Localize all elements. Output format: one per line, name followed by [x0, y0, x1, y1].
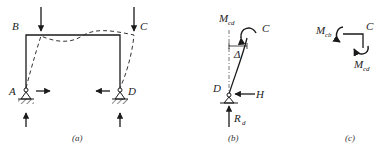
- frame-diagram: B C A D (a) M cd C Δ D H R d (b): [0, 0, 381, 150]
- label-h: H: [255, 88, 265, 100]
- pin-support-a: [18, 88, 34, 104]
- label-mcb-sub: cb: [325, 31, 332, 39]
- label-mcd-sub: cd: [228, 19, 235, 27]
- pin-support-d: [112, 88, 128, 104]
- label-rd-sub: d: [242, 119, 246, 127]
- label-c: C: [140, 20, 148, 32]
- label-delta: Δ: [233, 48, 240, 60]
- label-c-b: C: [262, 22, 270, 34]
- panel-b: M cd C Δ D H R d (b): [212, 12, 270, 143]
- panel-c: M cb C M cd (c): [315, 20, 374, 143]
- moment-arrow-mcb: [336, 27, 343, 42]
- moment-arrow-mcd-c: [354, 46, 368, 54]
- portal-frame: [26, 35, 120, 88]
- caption-a: (a): [72, 133, 83, 143]
- deflected-shape: [26, 31, 134, 88]
- label-b: B: [12, 20, 19, 32]
- panel-a: B C A D (a): [8, 7, 148, 143]
- caption-b: (b): [228, 133, 239, 143]
- label-mcd-c-sub: cd: [363, 65, 370, 73]
- caption-c: (c): [345, 133, 355, 143]
- label-a: A: [8, 85, 16, 97]
- deflected-column: [229, 38, 247, 94]
- joint-c: [343, 34, 363, 48]
- label-d: D: [127, 85, 136, 97]
- label-c-c: C: [366, 20, 374, 32]
- label-rd: R: [233, 112, 241, 124]
- label-d-b: D: [212, 82, 221, 94]
- moment-arrow-mcd: [241, 28, 256, 38]
